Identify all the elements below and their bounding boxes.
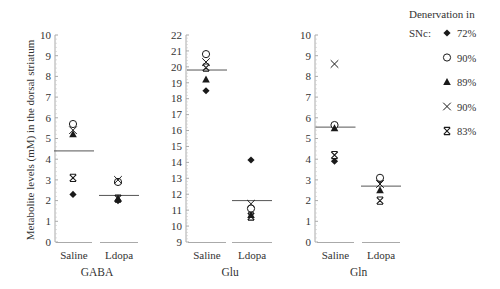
legend-title-line2: SNc:	[409, 27, 431, 39]
diamond-point-icon	[247, 156, 254, 163]
legend-item: 83%	[444, 126, 477, 137]
y-tick-label: 10	[171, 220, 183, 232]
legend-label: 90%	[457, 53, 477, 64]
asterisk-legend-icon	[444, 127, 451, 134]
circle-legend-icon	[443, 54, 450, 61]
panel-gln: 012345678910SalineLdopaGln	[300, 29, 401, 278]
legend-label: 83%	[457, 126, 477, 137]
legend-label: 89%	[457, 77, 477, 88]
diamond-point-icon	[202, 87, 209, 94]
y-tick-label: 1	[46, 215, 52, 227]
y-tick-label: 15	[171, 140, 183, 152]
y-tick-label: 17	[171, 108, 183, 120]
x-point-icon	[331, 60, 339, 68]
y-tick-label: 6	[306, 112, 312, 124]
y-axis-label: Metabolite levels (mM) in the dorsal str…	[24, 39, 37, 240]
triangle-legend-icon	[443, 78, 451, 85]
metabolite-chart: Metabolite levels (mM) in the dorsal str…	[0, 0, 500, 289]
asterisk-point-icon	[70, 174, 77, 181]
y-tick-label: 5	[46, 132, 52, 144]
y-tick-label: 18	[171, 92, 183, 104]
y-tick-label: 0	[306, 236, 312, 248]
category-label: Ldopa	[105, 249, 133, 261]
legend-item: 89%	[443, 77, 476, 88]
y-tick-label: 10	[300, 29, 312, 41]
panel-title: Glu	[221, 266, 239, 278]
y-tick-label: 2	[46, 194, 52, 206]
chart-panels: 012345678910SalineLdopaGABA9101112131415…	[40, 29, 401, 278]
y-tick-label: 0	[46, 236, 52, 248]
legend-label: 72%	[457, 28, 477, 39]
circle-point-icon	[202, 51, 209, 58]
y-tick-label: 16	[171, 124, 183, 136]
y-tick-label: 2	[306, 194, 312, 206]
y-tick-label: 3	[46, 174, 52, 186]
y-tick-label: 12	[171, 188, 182, 200]
y-tick-label: 5	[306, 132, 312, 144]
y-tick-label: 6	[46, 112, 52, 124]
x-legend-icon	[443, 103, 451, 111]
category-label: Ldopa	[367, 249, 395, 261]
y-tick-label: 4	[46, 153, 52, 165]
category-label: Saline	[322, 249, 350, 261]
y-tick-label: 4	[306, 153, 312, 165]
legend: Denervation in SNc: 72%90%89%90%83%	[409, 8, 477, 137]
panel-gaba: 012345678910SalineLdopaGABA	[40, 29, 139, 278]
y-tick-label: 7	[46, 91, 52, 103]
y-tick-label: 11	[171, 204, 182, 216]
legend-title-line1: Denervation in	[409, 8, 475, 20]
y-tick-label: 21	[171, 45, 182, 57]
y-tick-label: 9	[177, 236, 183, 248]
legend-items: 72%90%89%90%83%	[443, 28, 476, 137]
y-tick-label: 19	[171, 77, 183, 89]
category-label: Saline	[60, 249, 88, 261]
y-tick-label: 8	[306, 70, 312, 82]
diamond-point-icon	[69, 191, 76, 198]
y-tick-label: 8	[46, 70, 52, 82]
panel-title: GABA	[81, 266, 114, 278]
asterisk-point-icon	[377, 197, 384, 204]
legend-item: 72%	[443, 28, 476, 39]
triangle-point-icon	[202, 76, 210, 83]
asterisk-point-icon	[331, 151, 338, 158]
y-tick-label: 10	[40, 29, 52, 41]
circle-point-icon	[69, 120, 76, 127]
legend-label: 90%	[457, 102, 477, 113]
y-tick-label: 20	[171, 61, 183, 73]
y-tick-label: 7	[306, 91, 312, 103]
diamond-legend-icon	[443, 29, 450, 36]
category-label: Saline	[193, 249, 221, 261]
y-tick-label: 9	[306, 50, 312, 62]
y-tick-label: 22	[171, 29, 182, 41]
y-tick-label: 14	[171, 156, 183, 168]
panel-glu: 910111213141516171819202122SalineLdopaGl…	[171, 29, 272, 278]
y-tick-label: 9	[46, 50, 52, 62]
triangle-point-icon	[69, 130, 77, 137]
circle-point-icon	[376, 174, 383, 181]
y-tick-label: 13	[171, 172, 183, 184]
legend-item: 90%	[443, 53, 476, 64]
y-tick-label: 3	[306, 174, 312, 186]
legend-item: 90%	[443, 102, 476, 113]
panel-title: Gln	[350, 266, 368, 278]
category-label: Ldopa	[238, 249, 266, 261]
y-tick-label: 1	[306, 215, 312, 227]
